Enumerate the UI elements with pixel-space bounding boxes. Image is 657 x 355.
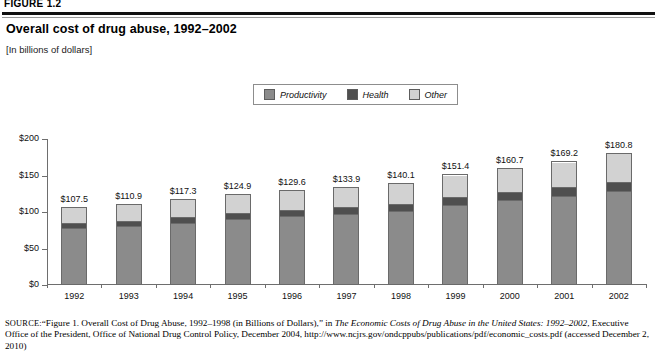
- y-axis-label: $50: [5, 243, 39, 253]
- stacked-bar[interactable]: [551, 161, 577, 285]
- x-axis-tick: [483, 284, 484, 288]
- stacked-bar[interactable]: [497, 168, 523, 285]
- legend-swatch-icon: [409, 89, 420, 100]
- bar-segment-productivity: [607, 192, 631, 284]
- source-prefix: SOURCE:: [5, 319, 42, 328]
- x-axis-tick: [47, 284, 48, 288]
- x-axis-label: 1996: [265, 291, 319, 301]
- x-axis-tick: [592, 284, 593, 288]
- bar-group[interactable]: [101, 139, 155, 285]
- bar-group[interactable]: [537, 139, 591, 285]
- bar-segment-other: [117, 205, 141, 222]
- x-axis-tick: [156, 284, 157, 288]
- x-axis-tick: [265, 284, 266, 288]
- x-axis-label: 1994: [156, 291, 210, 301]
- figure-number-label: FIGURE 1.2: [4, 0, 61, 9]
- stacked-bar[interactable]: [333, 187, 359, 285]
- x-axis-tick: [319, 284, 320, 288]
- stacked-bar[interactable]: [170, 199, 196, 285]
- x-axis-label: 1995: [210, 291, 264, 301]
- bar-segment-other: [552, 163, 576, 189]
- bar-segment-productivity: [62, 229, 86, 284]
- x-axis-label: 1998: [374, 291, 428, 301]
- bar-value-label: $133.9: [319, 174, 373, 184]
- bar-segment-productivity: [171, 224, 195, 284]
- bar-group[interactable]: [265, 139, 319, 285]
- bar-group[interactable]: [319, 139, 373, 285]
- legend-label: Productivity: [280, 90, 327, 100]
- legend-item-other: Other: [409, 89, 448, 100]
- bar-group[interactable]: [156, 139, 210, 285]
- legend-item-productivity: Productivity: [264, 89, 327, 100]
- stacked-bar[interactable]: [116, 204, 142, 285]
- bar-segment-productivity: [334, 215, 358, 284]
- x-axis-tick: [537, 284, 538, 288]
- x-axis-label: 2001: [537, 291, 591, 301]
- bar-segment-other: [443, 176, 467, 199]
- chart-legend: Productivity Health Other: [253, 84, 458, 105]
- bar-segment-other: [62, 208, 86, 224]
- y-axis-label: $150: [5, 170, 39, 180]
- x-axis-tick: [101, 284, 102, 288]
- bar-value-label: $160.7: [483, 155, 537, 165]
- legend-swatch-icon: [264, 89, 275, 100]
- y-axis-label: $100: [5, 206, 39, 216]
- bar-segment-health: [552, 188, 576, 196]
- x-axis-label: 1997: [319, 291, 373, 301]
- legend-swatch-icon: [347, 89, 358, 100]
- bar-segment-productivity: [117, 227, 141, 284]
- stacked-bar[interactable]: [279, 190, 305, 285]
- bar-value-label: $110.9: [101, 191, 155, 201]
- stacked-bar[interactable]: [606, 153, 632, 285]
- header-rule-thin: [2, 17, 655, 18]
- bar-value-label: $107.5: [47, 194, 101, 204]
- bar-segment-health: [389, 205, 413, 212]
- bar-segment-productivity: [389, 212, 413, 284]
- bar-group[interactable]: [592, 139, 646, 285]
- chart-subtitle: [In billions of dollars]: [6, 44, 92, 55]
- bar-segment-productivity: [226, 220, 250, 284]
- header-rule-thick: [2, 12, 655, 15]
- x-axis-tick: [428, 284, 429, 288]
- stacked-bar[interactable]: [225, 194, 251, 285]
- x-axis-label: 1999: [428, 291, 482, 301]
- bar-segment-productivity: [280, 217, 304, 284]
- bar-segment-productivity: [498, 201, 522, 284]
- bar-value-label: $151.4: [428, 161, 482, 171]
- bar-group[interactable]: [374, 139, 428, 285]
- x-axis-label: 2002: [592, 291, 646, 301]
- bar-segment-health: [607, 183, 631, 192]
- bar-segment-productivity: [552, 197, 576, 284]
- source-citation: SOURCE:“Figure 1. Overall Cost of Drug A…: [5, 318, 653, 352]
- x-axis-label: 2000: [483, 291, 537, 301]
- chart-plot-area: $0$50$100$150$200 $107.5$110.9$117.3$124…: [47, 139, 646, 285]
- bar-segment-other: [607, 154, 631, 183]
- bar-segment-health: [443, 198, 467, 206]
- bar-segment-health: [334, 208, 358, 215]
- source-text-part1: “Figure 1. Overall Cost of Drug Abuse, 1…: [42, 318, 335, 328]
- bar-segment-other: [226, 195, 250, 214]
- stacked-bar[interactable]: [442, 174, 468, 285]
- bar-series-container: $107.5$110.9$117.3$124.9$129.6$133.9$140…: [47, 139, 646, 285]
- bar-value-label: $169.2: [537, 148, 591, 158]
- bar-value-label: $140.1: [374, 170, 428, 180]
- y-axis-label: $0: [5, 279, 39, 289]
- x-axis-label: 1992: [47, 291, 101, 301]
- legend-label: Health: [363, 90, 389, 100]
- stacked-bar[interactable]: [388, 183, 414, 285]
- bar-segment-other: [498, 169, 522, 193]
- x-axis-tick: [374, 284, 375, 288]
- bar-value-label: $124.9: [210, 181, 264, 191]
- bar-group[interactable]: [210, 139, 264, 285]
- bar-segment-other: [389, 184, 413, 205]
- stacked-bar[interactable]: [61, 207, 87, 285]
- x-axis-label: 1993: [101, 291, 155, 301]
- x-axis-tick: [646, 284, 647, 288]
- bar-segment-other: [334, 188, 358, 208]
- bar-segment-health: [498, 193, 522, 201]
- bar-group[interactable]: [47, 139, 101, 285]
- bar-value-label: $117.3: [156, 186, 210, 196]
- page-title: Overall cost of drug abuse, 1992–2002: [6, 22, 237, 36]
- legend-item-health: Health: [347, 89, 389, 100]
- figure-header: FIGURE 1.2: [0, 0, 657, 11]
